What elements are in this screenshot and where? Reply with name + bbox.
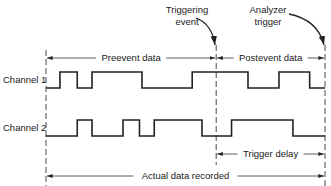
channel-2-waveform bbox=[46, 120, 325, 136]
analyzer-trigger-label-line1: Analyzer bbox=[250, 4, 287, 15]
channel-1-waveform bbox=[46, 72, 325, 88]
triggering-event-pointer bbox=[196, 18, 215, 45]
triggering-event-label-line1: Triggering bbox=[166, 4, 208, 15]
analyzer-trigger-pointer bbox=[289, 14, 324, 45]
trigger-delay-label: Trigger delay bbox=[243, 148, 298, 159]
analyzer-trigger-label-line2: trigger bbox=[255, 16, 282, 27]
channel-1-label: Channel 1 bbox=[3, 74, 46, 85]
preevent-data-label: Preevent data bbox=[102, 52, 162, 63]
logic-analyzer-timing-diagram: Triggering event Analyzer trigger Preeve… bbox=[0, 0, 331, 186]
actual-data-recorded-label: Actual data recorded bbox=[142, 170, 230, 181]
postevent-data-label: Postevent data bbox=[239, 52, 303, 63]
triggering-event-label-line2: event bbox=[175, 16, 199, 27]
channel-2-label: Channel 2 bbox=[3, 122, 46, 133]
